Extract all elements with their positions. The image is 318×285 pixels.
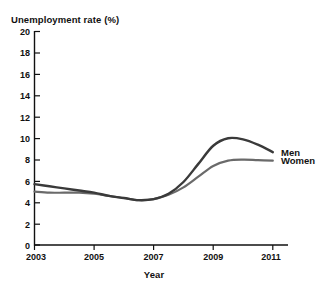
line-chart: Unemployment rate (%) 20 18 16 14 12 10 (0, 0, 318, 285)
y-tick-label-12: 12 (20, 113, 30, 123)
x-tick-label-2007: 2007 (144, 252, 164, 262)
y-axis-tick-labels: 20 18 16 14 12 10 8 6 4 2 0 (20, 27, 30, 251)
y-tick-label-2: 2 (25, 220, 30, 230)
series-label-women: Women (281, 155, 315, 166)
x-tick-label-2009: 2009 (203, 252, 223, 262)
y-tick-label-16: 16 (20, 70, 30, 80)
y-tick-label-20: 20 (20, 27, 30, 37)
y-tick-label-4: 4 (25, 198, 30, 208)
y-tick-label-6: 6 (25, 177, 30, 187)
x-axis-title: Year (144, 269, 165, 280)
x-tick-label-2003: 2003 (26, 252, 46, 262)
x-tick-label-2005: 2005 (84, 252, 104, 262)
x-axis-tick-labels: 2003 2005 2007 2009 2011 (26, 252, 281, 262)
y-tick-label-18: 18 (20, 48, 30, 58)
y-axis-ticks (35, 32, 41, 246)
series-line-women (35, 160, 273, 201)
y-tick-label-8: 8 (25, 155, 30, 165)
y-axis-title: Unemployment rate (%) (11, 14, 119, 25)
chart-container: Unemployment rate (%) 20 18 16 14 12 10 (0, 0, 318, 285)
y-tick-label-10: 10 (20, 134, 30, 144)
series-line-men (35, 138, 273, 200)
y-tick-label-0: 0 (25, 241, 30, 251)
x-axis-ticks (35, 245, 273, 250)
y-tick-label-14: 14 (20, 91, 30, 101)
x-tick-label-2011: 2011 (261, 252, 281, 262)
